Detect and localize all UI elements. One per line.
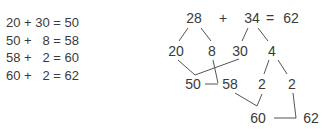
- part-4: 4: [268, 43, 276, 59]
- connector-8: [213, 60, 218, 83]
- branch-line: [278, 60, 287, 74]
- connector-20-30: [178, 59, 239, 75]
- addend-b: 34: [244, 10, 260, 26]
- part-30: 30: [232, 43, 248, 59]
- part-2a: 2: [258, 76, 266, 92]
- branch-line: [179, 28, 188, 41]
- connector-58-2: [235, 93, 262, 106]
- sum-62: 62: [303, 110, 319, 126]
- branch-line: [258, 28, 268, 41]
- total: 62: [283, 10, 299, 26]
- part-20: 20: [168, 43, 184, 59]
- sum-58: 58: [222, 76, 238, 92]
- decomposition-diagram: 28 + 34 = 62 20 8 30 4 50 58 2 2 60 62: [0, 0, 334, 132]
- addend-a: 28: [186, 10, 202, 26]
- branch-line: [242, 28, 248, 41]
- connector-60-2-62: [274, 93, 296, 118]
- sum-60: 60: [250, 110, 266, 126]
- branch-line: [264, 60, 269, 74]
- equals-sign: =: [266, 10, 274, 26]
- part-8: 8: [208, 43, 216, 59]
- sum-50: 50: [185, 76, 201, 92]
- plus-sign: +: [219, 10, 227, 26]
- part-2b: 2: [288, 76, 296, 92]
- branch-line: [201, 28, 211, 41]
